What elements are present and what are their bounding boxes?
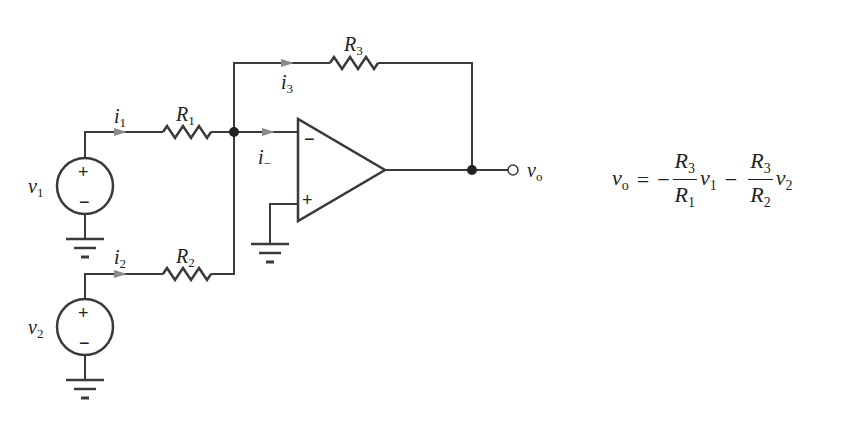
resistor-r2: [163, 268, 211, 280]
v2-minus: −: [79, 333, 90, 353]
eq-lhs: vo: [612, 165, 629, 194]
ground-icon: [66, 239, 104, 257]
junction-node: [229, 127, 239, 137]
wire-v2-top: [85, 274, 163, 299]
label-i2: i2: [114, 247, 126, 270]
eq-term2-sign: −: [725, 167, 737, 193]
eq-var-v1: v1: [700, 165, 717, 194]
label-r3: R3: [344, 34, 363, 57]
output-node: [467, 165, 477, 175]
opamp-inverting-label: −: [304, 129, 315, 149]
label-r1: R1: [176, 104, 195, 127]
circuit-schematic: + − + − − +: [0, 0, 857, 426]
v1-plus: +: [78, 162, 89, 182]
label-i-minus: i−: [258, 147, 271, 170]
opamp-noninverting-label: +: [302, 190, 313, 210]
eq-fraction-r3-r2: R3 R2: [748, 148, 772, 211]
wire-r2-node: [211, 132, 234, 274]
label-i1: i1: [114, 106, 126, 129]
output-terminal: [508, 165, 518, 175]
label-vo: vo: [527, 160, 542, 183]
label-v2: v2: [28, 317, 43, 340]
ground-icon: [251, 244, 289, 262]
arrow-i2-icon: [114, 270, 127, 278]
label-v1: v1: [28, 176, 43, 199]
eq-fraction-r3-r1: R3 R1: [673, 148, 697, 211]
eq-var-v2: v2: [776, 165, 793, 194]
arrow-iminus-icon: [262, 128, 275, 136]
v2-plus: +: [78, 303, 89, 323]
wire-r3-output: [378, 63, 472, 170]
eq-equals: =: [637, 167, 649, 193]
label-r2: R2: [176, 246, 195, 269]
output-equation: vo = − R3 R1 v1 − R3 R2 v2: [612, 148, 792, 211]
label-i3: i3: [281, 72, 293, 95]
resistor-r1: [163, 126, 211, 138]
v1-minus: −: [79, 192, 90, 212]
wire-v1-top: [85, 132, 163, 158]
eq-term1-sign: −: [657, 167, 669, 193]
ground-icon: [66, 380, 104, 398]
resistor-r3: [330, 57, 378, 69]
wire-noninverting-ground: [270, 204, 298, 243]
arrow-i3-icon: [281, 59, 294, 67]
